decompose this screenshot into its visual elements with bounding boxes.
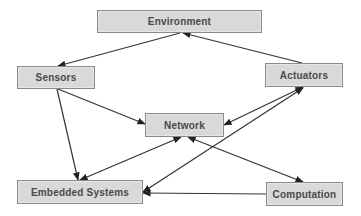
edge-sensors-to-embedded (57, 89, 78, 180)
edge-network-to-computation (188, 137, 303, 182)
edge-sensors-to-network (58, 89, 145, 124)
edge-actuators-to-network (224, 87, 303, 125)
node-actuators: Actuators (265, 63, 343, 87)
edge-computation-to-embedded (143, 193, 266, 194)
diagram-canvas: Environment Sensors Actuators Network Em… (0, 0, 361, 216)
edge-actuators-to-embedded (143, 88, 303, 192)
node-computation: Computation (266, 182, 343, 206)
edge-network-to-embedded (80, 137, 181, 180)
node-embedded-systems: Embedded Systems (17, 180, 143, 204)
node-environment: Environment (97, 10, 262, 33)
node-label-actuators: Actuators (280, 70, 328, 81)
node-network: Network (145, 113, 224, 137)
node-label-embedded-systems: Embedded Systems (31, 187, 129, 198)
node-sensors: Sensors (17, 66, 95, 89)
node-label-sensors: Sensors (36, 72, 77, 83)
edge-environment-to-sensors (58, 33, 180, 66)
node-label-network: Network (164, 120, 205, 131)
node-label-computation: Computation (273, 189, 337, 200)
edge-actuators-to-environment (183, 33, 302, 63)
node-label-environment: Environment (148, 16, 211, 27)
